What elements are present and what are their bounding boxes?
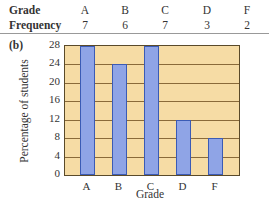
grade-cell: B [115, 4, 135, 16]
plot-area [64, 45, 240, 176]
frequency-cell: 7 [75, 19, 95, 31]
bar-A [80, 46, 95, 175]
grade-cell: C [155, 4, 175, 16]
grade-row: Grade A B C D F [0, 4, 269, 20]
y-tick-label: 0 [40, 167, 60, 179]
frequency-cell: 6 [115, 19, 135, 31]
y-axis-label: Percentage of students [18, 56, 30, 166]
part-label: (b) [9, 39, 23, 51]
grade-cell: D [197, 4, 217, 16]
y-tick-label: 28 [40, 38, 60, 50]
frequency-cell: 2 [237, 19, 257, 31]
bar-F [208, 138, 223, 175]
table-divider [0, 33, 269, 34]
y-tick-label: 8 [40, 130, 60, 142]
y-tick-label: 24 [40, 56, 60, 68]
y-tick-label: 16 [40, 93, 60, 105]
bar-C [144, 46, 159, 175]
grade-cell: F [237, 4, 257, 16]
grade-header: Grade [9, 4, 40, 16]
grade-cell: A [75, 4, 95, 16]
y-tick-label: 12 [40, 112, 60, 124]
x-tick-label: F [205, 180, 225, 192]
x-axis-label: Grade [120, 188, 180, 200]
frequency-cell: 7 [155, 19, 175, 31]
y-tick-label: 20 [40, 75, 60, 87]
bar-B [112, 64, 127, 175]
frequency-cell: 3 [197, 19, 217, 31]
frequency-header: Frequency [9, 19, 61, 31]
y-tick-label: 4 [40, 149, 60, 161]
bar-D [176, 120, 191, 175]
x-tick-label: A [77, 180, 97, 192]
